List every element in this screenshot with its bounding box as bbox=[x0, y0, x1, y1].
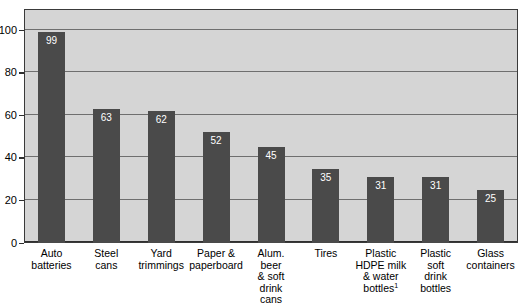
category-label-line: Plastic bbox=[353, 248, 408, 260]
bar-value-label: 31 bbox=[422, 180, 449, 191]
category-label-line: Tires bbox=[298, 248, 353, 260]
category-label: Plasticsoftdrinkbottles bbox=[408, 248, 463, 294]
category-label: Tires bbox=[298, 248, 353, 260]
category-label: Yardtrimmings bbox=[134, 248, 189, 271]
bar: 25 bbox=[477, 190, 504, 243]
category-label: Steelcans bbox=[79, 248, 134, 271]
category-label-line: trimmings bbox=[134, 260, 189, 272]
category-label-line: Paper & bbox=[189, 248, 244, 260]
category-label: Alum.beer& softdrinkcans bbox=[244, 248, 299, 306]
category-label-line: cans bbox=[244, 294, 299, 306]
bar-value-label: 25 bbox=[477, 193, 504, 204]
bars-layer: 996362524535313125 bbox=[24, 9, 518, 243]
bar: 31 bbox=[422, 177, 449, 243]
category-label-line: Yard bbox=[134, 248, 189, 260]
category-label: Paper &paperboard bbox=[189, 248, 244, 271]
category-label: Autobatteries bbox=[24, 248, 79, 271]
y-tick-label-0: 0 bbox=[11, 238, 17, 249]
y-tick-label-20: 20 bbox=[5, 195, 17, 206]
bar: 99 bbox=[38, 32, 65, 243]
category-label-line: bottles1 bbox=[353, 283, 408, 295]
y-tick-label-80: 80 bbox=[5, 67, 17, 78]
bar-value-label: 99 bbox=[38, 35, 65, 46]
y-tick-label-60: 60 bbox=[5, 110, 17, 121]
category-label-line: Alum. bbox=[244, 248, 299, 260]
category-label: PlasticHDPE milk& waterbottles1 bbox=[353, 248, 408, 294]
bar-value-label: 63 bbox=[93, 112, 120, 123]
bar-value-label: 52 bbox=[203, 135, 230, 146]
category-label-line: paperboard bbox=[189, 260, 244, 272]
bar: 63 bbox=[93, 109, 120, 243]
bar: 45 bbox=[258, 147, 285, 243]
category-label-line: batteries bbox=[24, 260, 79, 272]
bar: 52 bbox=[203, 132, 230, 243]
bar-value-label: 62 bbox=[148, 114, 175, 125]
x-axis-category-labels: AutobatteriesSteelcansYardtrimmingsPaper… bbox=[24, 248, 518, 307]
footnote-marker: 1 bbox=[394, 281, 398, 288]
bar-value-label: 35 bbox=[312, 172, 339, 183]
category-label: Glasscontainers bbox=[463, 248, 518, 271]
y-tick-label-100: 100 bbox=[0, 25, 17, 36]
bar-value-label: 45 bbox=[258, 150, 285, 161]
category-label-line: Plastic bbox=[408, 248, 463, 260]
category-label-line: Steel bbox=[79, 248, 134, 260]
bar-chart: 020406080100 996362524535313125 Autobatt… bbox=[0, 0, 523, 307]
bar: 35 bbox=[312, 169, 339, 243]
bar: 62 bbox=[148, 111, 175, 243]
y-axis: 020406080100 bbox=[0, 0, 24, 307]
category-label-line: containers bbox=[463, 260, 518, 272]
bar-value-label: 31 bbox=[367, 180, 394, 191]
category-label-line: Auto bbox=[24, 248, 79, 260]
y-tick-label-40: 40 bbox=[5, 152, 17, 163]
category-label-line: Glass bbox=[463, 248, 518, 260]
bar: 31 bbox=[367, 177, 394, 243]
category-label-line: cans bbox=[79, 260, 134, 272]
category-label-line: bottles bbox=[408, 283, 463, 295]
